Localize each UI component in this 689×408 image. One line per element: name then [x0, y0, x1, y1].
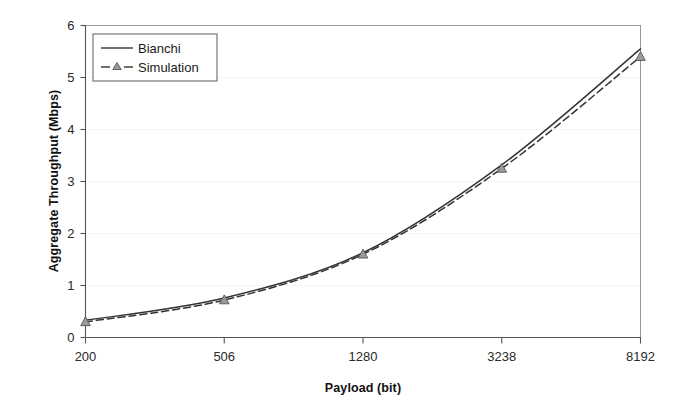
x-tick-label-3238: 3238: [487, 349, 516, 364]
y-tick-label-1: 1: [67, 278, 74, 293]
x-axis-title: Payload (bit): [325, 381, 401, 395]
y-tick-label-0: 0: [67, 330, 74, 345]
y-tick-label-5: 5: [67, 70, 74, 85]
y-tick-label-3: 3: [67, 174, 74, 189]
x-tick-label-506: 506: [213, 349, 235, 364]
y-tick-label-4: 4: [67, 122, 74, 137]
legend: Bianchi Simulation: [93, 34, 217, 81]
throughput-line-chart: 0123456 200506128032388192 Aggregate Thr…: [0, 0, 689, 408]
x-tick-label-8192: 8192: [626, 349, 655, 364]
x-tick-label-1280: 1280: [349, 349, 378, 364]
y-axis-title: Aggregate Throughput (Mbps): [47, 90, 61, 273]
legend-label-bianchi: Bianchi: [138, 41, 181, 56]
y-tick-label-6: 6: [67, 18, 74, 33]
y-tick-label-2: 2: [67, 226, 74, 241]
legend-label-simulation: Simulation: [138, 60, 199, 75]
x-tick-label-200: 200: [75, 349, 97, 364]
chart-figure: 0123456 200506128032388192 Aggregate Thr…: [0, 0, 689, 408]
